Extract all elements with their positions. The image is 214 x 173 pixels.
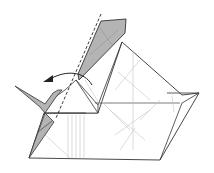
origami-diagram [0, 0, 214, 173]
fold-direction-arrow-left [43, 73, 92, 85]
